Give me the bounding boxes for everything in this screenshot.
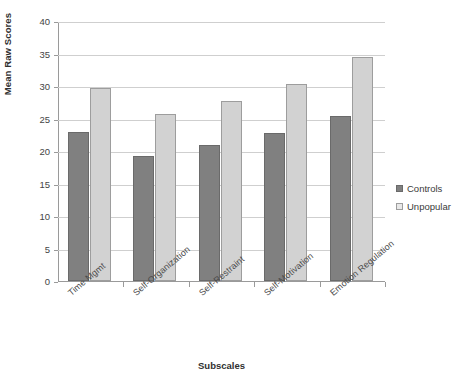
chart-legend: Controls Unpopular [396,181,451,217]
y-tick-mark [54,282,58,283]
bar-controls [199,145,220,281]
bar-controls [330,116,351,281]
y-tick-label: 10 [24,212,50,221]
bar-controls [68,132,89,282]
bar-group [58,22,123,281]
y-tick-label: 40 [24,17,50,26]
y-tick-label: 20 [24,147,50,156]
controls-swatch-icon [396,185,403,192]
legend-label-unpopular: Unpopular [407,201,451,212]
x-axis-title: Subscales [58,360,385,371]
bar-unpopular [286,84,307,281]
y-tick-label: 25 [24,115,50,124]
x-tick-mark [320,282,321,287]
y-tick-label: 0 [24,277,50,286]
bar-unpopular [90,88,111,281]
bar-group [254,22,319,281]
bar-group [123,22,188,281]
unpopular-swatch-icon [396,203,403,210]
legend-label-controls: Controls [407,183,442,194]
bar-unpopular [352,57,373,281]
bar-chart-figure: Mean Raw Scores 0510152025303540 Time Mg… [0,0,470,390]
y-tick-label: 5 [24,245,50,254]
y-tick-label: 35 [24,50,50,59]
x-tick-mark [189,282,190,287]
legend-item-unpopular: Unpopular [396,199,451,214]
y-axis-title: Mean Raw Scores [2,0,16,114]
plot-area: 0510152025303540 [58,22,385,282]
bar-group [320,22,385,281]
y-tick-label: 15 [24,180,50,189]
legend-item-controls: Controls [396,181,451,196]
x-tick-mark [254,282,255,287]
bar-group [189,22,254,281]
x-tick-mark [385,282,386,287]
bar-controls [264,133,285,281]
x-tick-mark [123,282,124,287]
y-tick-label: 30 [24,82,50,91]
bar-controls [133,156,154,281]
chart-title [0,0,470,2]
